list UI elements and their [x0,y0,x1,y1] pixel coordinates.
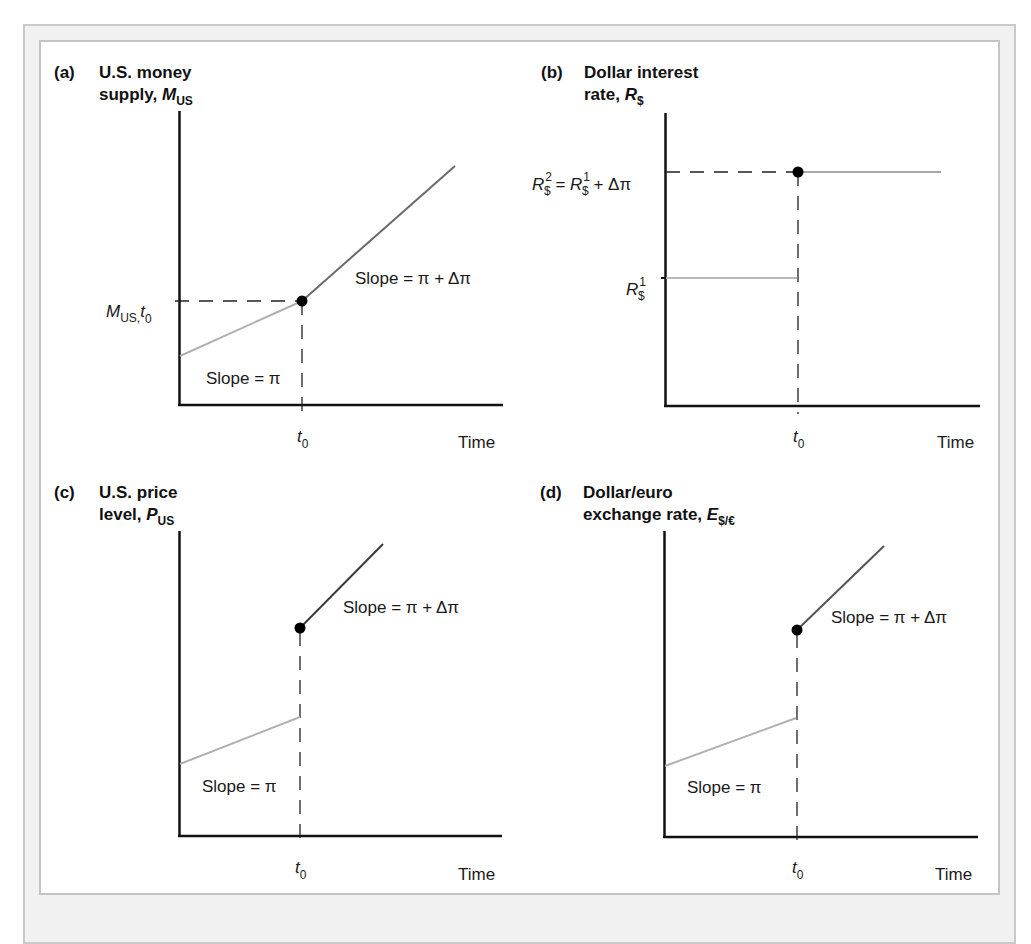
panel-b-title-line1: Dollar interest [584,63,699,82]
panel-d-slope-before-label: Slope = π [687,778,762,797]
panel-c-x-label: Time [458,865,495,884]
panel-b-letter: (b) [541,63,563,82]
panel-b-x-label: Time [937,433,974,452]
panel-c-line-before [180,717,300,764]
panel-c-letter: (c) [54,483,75,502]
panel-c-slope-after-label: Slope = π + Δπ [343,598,459,617]
panel-a-letter: (a) [54,63,75,82]
panel-a-t0-label: t0 [297,427,309,451]
panel-c-slope-before-label: Slope = π [202,777,277,796]
panel-b-t0-label: t0 [793,427,805,451]
panel-a-point-marker [297,296,308,307]
panel-a-line-before [180,301,302,356]
panel-c-title-line1: U.S. price [99,483,177,502]
panel-d-slope-after-label: Slope = π + Δπ [831,608,947,627]
panel-d: (d) Dollar/euro exchange rate, E$/€ Slop… [540,483,978,884]
panel-b-point-marker [793,167,804,178]
panel-d-title-line1: Dollar/euro [583,483,673,502]
panel-d-t0-label: t0 [792,858,804,882]
panel-c-t0-label: t0 [295,858,307,882]
panel-d-letter: (d) [540,483,562,502]
panel-b-y-tick-high-label: R2$ = R1$ + Δπ [532,170,631,198]
panel-b-title-line2: rate, R$ [584,85,644,108]
panel-a-x-label: Time [458,433,495,452]
panel-c-point-marker [295,623,306,634]
panel-d-x-label: Time [935,865,972,884]
panel-a-title-line1: U.S. money [99,63,192,82]
panel-a-slope-before-label: Slope = π [206,369,281,388]
panel-a-y-tick-label: MUS,t0 [106,302,152,326]
panel-a: (a) U.S. money supply, MUS MUS,t0 Slope … [54,63,503,452]
panel-c: (c) U.S. price level, PUS Slope = π Slop… [54,483,502,884]
panel-d-point-marker [792,625,803,636]
panel-a-slope-after-label: Slope = π + Δπ [355,269,471,288]
panel-a-title-line2: supply, MUS [99,85,193,108]
panel-c-title-line2: level, PUS [99,505,174,528]
panel-b: (b) Dollar interest rate, R$ R2$ = R1$ +… [532,63,980,452]
panel-d-line-before [665,718,796,766]
panel-d-title-line2: exchange rate, E$/€ [583,505,735,528]
panel-b-y-tick-low-label: R1$ [626,275,646,303]
